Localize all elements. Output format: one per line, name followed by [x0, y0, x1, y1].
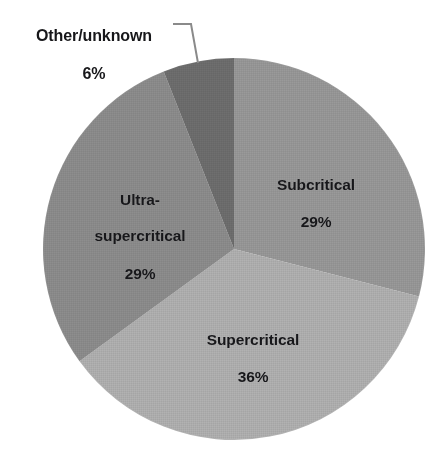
slice-label-subcritical-name: Subcritical: [252, 176, 380, 194]
slice-label-subcritical-value: 29%: [252, 213, 380, 231]
slice-label-ultra-supercritical-name-line1: Ultra-: [72, 191, 208, 209]
slice-label-ultra-supercritical-value: 29%: [72, 265, 208, 283]
slice-label-supercritical-name: Supercritical: [178, 331, 328, 349]
slice-label-other-unknown-name: Other/unknown: [8, 27, 180, 46]
slice-label-other-unknown: Other/unknown 6%: [8, 8, 180, 102]
slice-label-other-unknown-value: 6%: [8, 65, 180, 84]
slice-label-ultra-supercritical-name-line2: supercritical: [72, 227, 208, 245]
pie-chart: Subcritical 29% Supercritical 36% Ultra-…: [0, 0, 446, 457]
slice-label-supercritical: Supercritical 36%: [178, 312, 328, 405]
slice-label-supercritical-value: 36%: [178, 368, 328, 386]
slice-label-subcritical: Subcritical 29%: [252, 157, 380, 250]
slice-label-ultra-supercritical: Ultra- supercritical 29%: [72, 172, 208, 301]
